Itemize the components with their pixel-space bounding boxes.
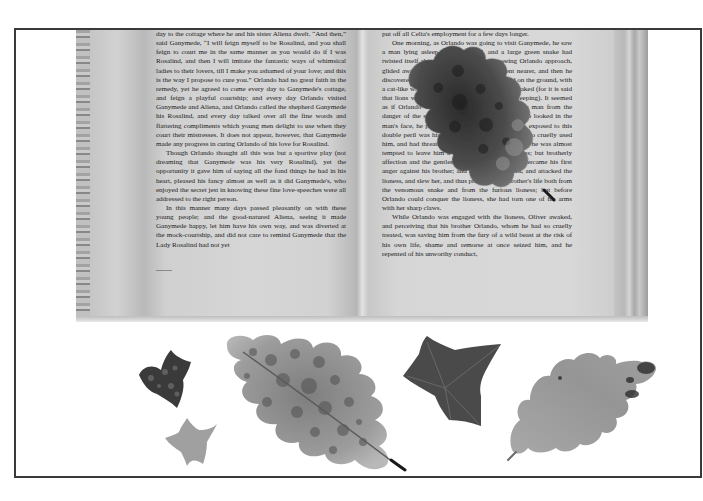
dark-ivy-leaf-icon xyxy=(401,336,505,428)
paragraph: In this manner many days passed pleasant… xyxy=(156,204,346,250)
small-dark-ivy-leaf-icon xyxy=(137,350,195,410)
paragraph: day to the cottage where he and his sist… xyxy=(156,30,346,149)
small-light-ivy-leaf-icon xyxy=(163,418,219,468)
large-mottled-oak-leaf-icon xyxy=(223,332,413,472)
photo-frame: day to the cottage where he and his sist… xyxy=(14,28,702,478)
dried-oak-leaf-icon xyxy=(404,32,584,207)
paragraph: While Orlando was engaged with the lione… xyxy=(382,213,572,259)
book-page-edges-right xyxy=(614,30,648,320)
open-book: day to the cottage where he and his sist… xyxy=(76,30,648,320)
page-footnote-rule xyxy=(156,270,172,271)
paragraph: Though Orlando thought all this was but … xyxy=(156,149,346,204)
left-page-text: day to the cottage where he and his sist… xyxy=(156,30,346,250)
book-bottom-edge xyxy=(76,316,648,322)
light-oak-leaf-icon xyxy=(506,350,666,462)
